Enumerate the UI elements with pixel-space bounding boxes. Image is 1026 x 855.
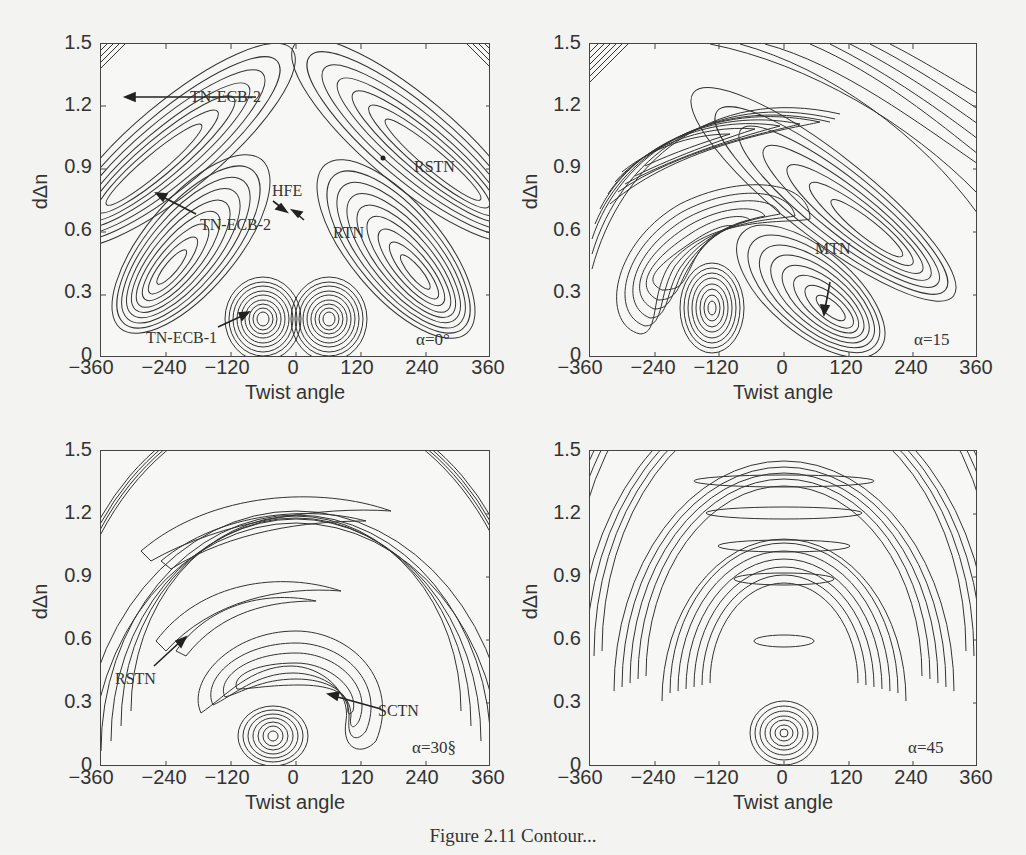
plot-area [100, 43, 490, 357]
annotation-tn-ecb-2-upper: TN-ECB-2 [190, 88, 261, 106]
y-axis-label: dΔn [29, 162, 52, 222]
xtick: 240 [881, 356, 941, 379]
y-axis-label: dΔn [519, 162, 542, 222]
xtick: −120 [197, 766, 257, 789]
annotation-hfe: HFE [272, 182, 302, 200]
xtick: 0 [263, 356, 323, 379]
ytick: 1.2 [52, 501, 92, 524]
ytick: 1.5 [541, 31, 581, 54]
annotation-sctn: SCTN [378, 702, 419, 720]
contour-plot [590, 451, 977, 766]
xtick: 360 [946, 356, 1006, 379]
xtick: −240 [134, 766, 194, 789]
ytick: 0.3 [541, 690, 581, 713]
xtick: 360 [946, 766, 1006, 789]
xtick: 0 [263, 766, 323, 789]
plot-area [589, 43, 977, 357]
ytick: 0.6 [52, 218, 92, 241]
xtick: −360 [61, 766, 121, 789]
annotation-rstn: RSTN [115, 670, 156, 688]
plot-area [589, 450, 977, 766]
contour-plot [101, 44, 490, 357]
xtick: 240 [881, 766, 941, 789]
ytick: 0.9 [52, 564, 92, 587]
xtick: 120 [327, 766, 387, 789]
annotation-tn-ecb-2-mid: TN-ECB-2 [200, 216, 271, 234]
annotation-rtn: RTN [333, 224, 364, 242]
xtick: −360 [550, 356, 610, 379]
ytick: 0.9 [541, 564, 581, 587]
annotation-rstn: RSTN [414, 158, 455, 176]
ytick: 0.6 [541, 627, 581, 650]
alpha-label: α=45 [908, 738, 944, 758]
xtick: 120 [816, 766, 876, 789]
ytick: 0.9 [52, 155, 92, 178]
y-axis-label: dΔn [29, 572, 52, 632]
ytick: 0.3 [52, 280, 92, 303]
ytick: 0.3 [52, 690, 92, 713]
ytick: 1.5 [52, 438, 92, 461]
x-axis-label: Twist angle [683, 791, 883, 814]
ytick: 1.2 [541, 501, 581, 524]
ytick: 1.2 [541, 93, 581, 116]
xtick: 0 [752, 766, 812, 789]
x-axis-label: Twist angle [683, 381, 883, 404]
ytick: 1.2 [52, 93, 92, 116]
annotation-mtn: MTN [815, 240, 851, 258]
ytick: 1.5 [52, 31, 92, 54]
xtick: 0 [752, 356, 812, 379]
x-axis-label: Twist angle [195, 381, 395, 404]
xtick: −120 [686, 356, 746, 379]
xtick: −240 [134, 356, 194, 379]
xtick: 120 [327, 356, 387, 379]
xtick: −360 [61, 356, 121, 379]
xtick: −240 [623, 356, 683, 379]
alpha-label: α=0° [416, 330, 450, 350]
ytick: 0.6 [541, 218, 581, 241]
ytick: 0.9 [541, 155, 581, 178]
xtick: −120 [686, 766, 746, 789]
contour-plot [101, 451, 490, 766]
xtick: −240 [623, 766, 683, 789]
xtick: 360 [458, 766, 518, 789]
ytick: 0.3 [541, 280, 581, 303]
xtick: 240 [392, 356, 452, 379]
xtick: −120 [197, 356, 257, 379]
xtick: −360 [550, 766, 610, 789]
xtick: 120 [816, 356, 876, 379]
x-axis-label: Twist angle [195, 791, 395, 814]
alpha-label: α=15 [914, 330, 950, 350]
y-axis-label: dΔn [519, 572, 542, 632]
annotation-tn-ecb-1: TN-ECB-1 [146, 329, 217, 347]
ytick: 1.5 [541, 438, 581, 461]
ytick: 0.6 [52, 627, 92, 650]
plot-area [100, 450, 490, 766]
xtick: 240 [392, 766, 452, 789]
contour-plot [590, 44, 977, 357]
alpha-label: α=30§ [412, 738, 456, 758]
figure-caption: Figure 2.11 Contour... [0, 825, 1026, 847]
xtick: 360 [458, 356, 518, 379]
